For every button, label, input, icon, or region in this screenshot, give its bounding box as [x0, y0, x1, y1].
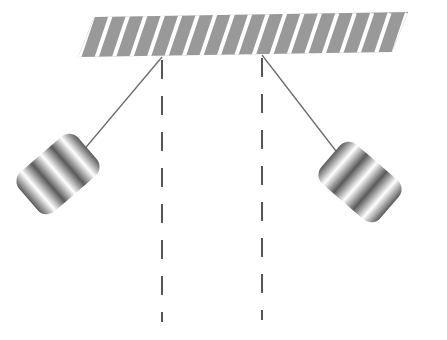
left-pendulum-string — [82, 57, 162, 152]
hatched-ceiling-support — [78, 12, 424, 61]
right-pendulum-bob — [314, 137, 407, 227]
pendulum-diagram — [0, 0, 447, 340]
right-pendulum-string — [262, 55, 346, 164]
diagram-canvas — [0, 0, 447, 340]
